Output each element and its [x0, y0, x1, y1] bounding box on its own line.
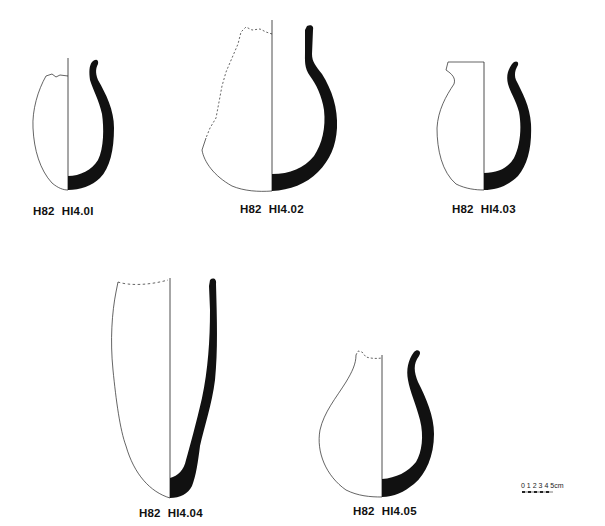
- feature-code: H82: [139, 507, 161, 519]
- pottery-drawing-plate: [0, 0, 605, 526]
- vessel-drawing-4: [112, 278, 217, 498]
- scale-tick: 0: [521, 482, 525, 489]
- feature-code: H82: [452, 203, 474, 215]
- vessel-drawing-5: [319, 350, 434, 497]
- scale-bar: [522, 491, 553, 493]
- feature-code: H82: [33, 205, 55, 217]
- vessel-label-5: H82HI4.05: [353, 505, 417, 517]
- vessel-drawing-1: [33, 58, 114, 190]
- scale-bar-labels: 0 1 2 3 4 5cm: [521, 482, 564, 489]
- vessel-label-2: H82HI4.02: [240, 203, 304, 215]
- vessel-label-1: H82HI4.0I: [33, 205, 94, 217]
- feature-code: H82: [240, 203, 262, 215]
- scale-unit: cm: [554, 482, 563, 489]
- feature-code: H82: [353, 505, 375, 517]
- scale-tick: 1: [527, 482, 531, 489]
- scale-tick: 2: [533, 482, 537, 489]
- vessel-number: HI4.02: [269, 203, 304, 215]
- vessel-number: HI4.05: [382, 505, 417, 517]
- vessel-drawing-3: [437, 61, 531, 190]
- vessel-number: HI4.0I: [62, 205, 94, 217]
- vessel-number: HI4.03: [481, 203, 516, 215]
- vessel-drawing-2: [202, 20, 337, 191]
- vessel-label-4: H82HI4.04: [139, 507, 203, 519]
- vessel-number: HI4.04: [168, 507, 203, 519]
- vessel-label-3: H82HI4.03: [452, 203, 516, 215]
- scale-tick: 4: [544, 482, 548, 489]
- scale-tick: 3: [539, 482, 543, 489]
